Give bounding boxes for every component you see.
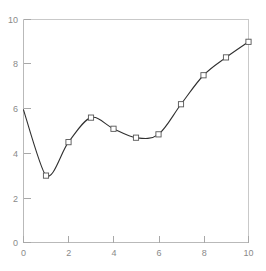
- x-tick-label-4: 4: [111, 248, 116, 258]
- line-chart-plot: 0 2 4 6 8 10 0 2 4 6 8 10: [0, 0, 266, 271]
- data-point-marker: [43, 173, 48, 178]
- chart-figure: 0 2 4 6 8 10 0 2 4 6 8 10: [0, 0, 266, 271]
- data-point-marker: [66, 140, 71, 145]
- x-tick-label-10: 10: [243, 248, 253, 258]
- data-curve: [24, 42, 249, 176]
- y-tick-label-10: 10: [8, 15, 18, 25]
- data-point-marker: [246, 39, 251, 44]
- data-point-marker: [133, 135, 138, 140]
- data-point-marker: [201, 73, 206, 78]
- x-tick-label-0: 0: [21, 248, 26, 258]
- data-point-marker: [178, 102, 183, 107]
- data-point-marker: [156, 132, 161, 137]
- plot-frame: [23, 19, 249, 243]
- y-tick-label-6: 6: [13, 104, 18, 114]
- data-markers: [43, 39, 251, 178]
- x-axis-ticks: [24, 236, 249, 243]
- y-tick-label-8: 8: [13, 59, 18, 69]
- y-axis-tick-labels: 0 2 4 6 8 10: [8, 15, 18, 248]
- y-tick-label-4: 4: [13, 149, 18, 159]
- y-tick-label-0: 0: [13, 238, 18, 248]
- y-tick-label-2: 2: [13, 194, 18, 204]
- x-tick-label-8: 8: [202, 248, 207, 258]
- data-point-marker: [223, 55, 228, 60]
- data-point-marker: [88, 115, 93, 120]
- data-point-marker: [111, 126, 116, 131]
- x-tick-label-2: 2: [66, 248, 71, 258]
- x-tick-label-6: 6: [157, 248, 162, 258]
- x-axis-tick-labels: 0 2 4 6 8 10: [21, 248, 254, 258]
